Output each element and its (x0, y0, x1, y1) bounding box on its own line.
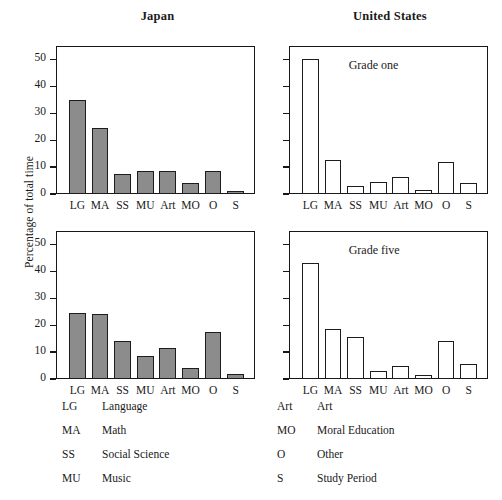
legend-item: MOMoral Education (277, 424, 497, 448)
legend-left-column: LGLanguageMAMathSSSocial ScienceMUMusic (62, 400, 262, 496)
y-axis-tick (283, 244, 289, 245)
bar-art (392, 366, 409, 379)
legend-item: MUMusic (62, 472, 262, 496)
legend-item: LGLanguage (62, 400, 262, 424)
figure-root: Japan United States Percentage of total … (0, 0, 502, 500)
legend-item: SStudy Period (277, 472, 497, 496)
bar-s (460, 364, 477, 379)
bar-mo (415, 375, 432, 379)
legend-label: Moral Education (317, 424, 395, 436)
legend-right-column: ArtArtMOMoral EducationOOtherSStudy Peri… (277, 400, 497, 496)
legend-item: ArtArt (277, 400, 497, 424)
bar-lg (302, 263, 319, 379)
x-axis-tick-label: S (447, 384, 491, 396)
legend-abbreviation: O (277, 448, 307, 460)
legend-label: Music (102, 472, 131, 484)
legend-abbreviation: MU (62, 472, 92, 484)
legend-abbreviation: S (277, 472, 307, 484)
bar-ma (325, 329, 342, 379)
y-axis-tick (283, 351, 289, 352)
bar-o (438, 341, 455, 379)
legend-item: OOther (277, 448, 497, 472)
legend-label: Social Science (102, 448, 169, 460)
legend-label: Other (317, 448, 343, 460)
y-axis-tick (283, 271, 289, 272)
y-axis-tick (283, 378, 289, 379)
legend-label: Art (317, 400, 332, 412)
legend-abbreviation: Art (277, 400, 307, 412)
legend-label: Language (102, 400, 147, 412)
legend-label: Study Period (317, 472, 377, 484)
legend-item: SSSocial Science (62, 448, 262, 472)
legend-item: MAMath (62, 424, 262, 448)
legend-abbreviation: MO (277, 424, 307, 436)
grade-note: Grade five (349, 243, 400, 258)
y-axis-tick (283, 325, 289, 326)
legend-label: Math (102, 424, 126, 436)
legend-abbreviation: LG (62, 400, 92, 412)
legend-abbreviation: MA (62, 424, 92, 436)
legend-abbreviation: SS (62, 448, 92, 460)
bar-ss (347, 337, 364, 379)
y-axis-tick (283, 298, 289, 299)
bar-mu (370, 371, 387, 379)
